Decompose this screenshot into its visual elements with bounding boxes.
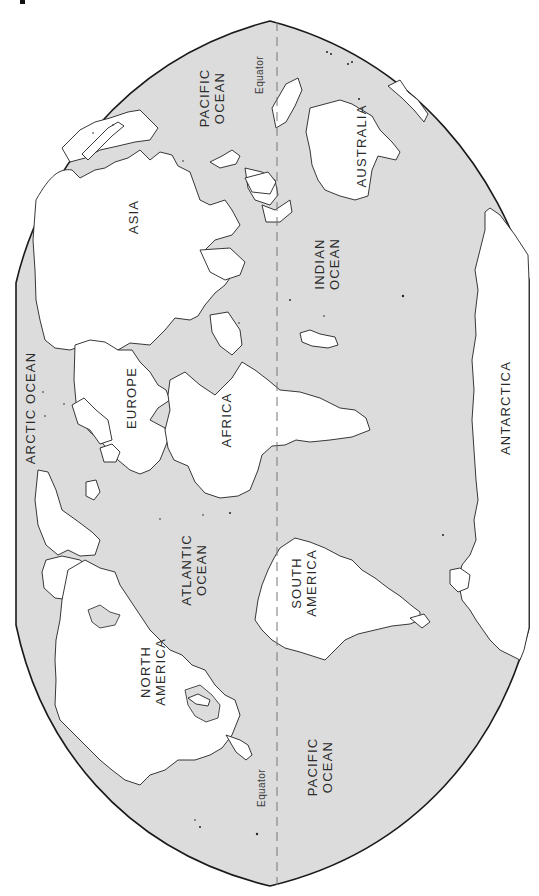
arctic-ocean-label: ARCTIC OCEAN xyxy=(23,352,38,465)
pacific-ocean-label-bottom: PACIFIC OCEAN xyxy=(305,738,335,797)
australia-label: AUSTRALIA xyxy=(354,104,369,187)
africa-label: AFRICA xyxy=(219,393,234,448)
asia-label: ASIA xyxy=(126,200,141,234)
map-canvas xyxy=(0,0,539,896)
atlantic-ocean-label: ATLANTIC OCEAN xyxy=(179,534,209,605)
world-map: Equator Equator PACIFIC OCEAN INDIAN OCE… xyxy=(0,0,539,896)
antarctica-label: ANTARCTICA xyxy=(498,361,513,455)
europe-label: EUROPE xyxy=(124,367,139,429)
equator-label-bottom: Equator xyxy=(254,769,269,807)
south-america-label: SOUTH AMERICA xyxy=(289,549,319,617)
north-america-label: NORTH AMERICA xyxy=(138,638,168,706)
pacific-ocean-label-top: PACIFIC OCEAN xyxy=(197,69,227,128)
indian-ocean-label: INDIAN OCEAN xyxy=(312,238,342,290)
equator-label-top: Equator xyxy=(252,56,267,94)
